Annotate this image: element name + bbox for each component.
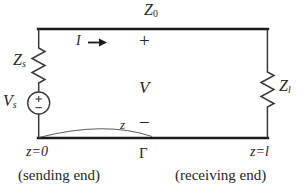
voltage-source-symbol xyxy=(28,92,50,114)
voltage-plus-terminal-label: + xyxy=(139,31,150,50)
sending-end-position-label: z=0 xyxy=(26,145,48,159)
circuit-diagram-figure: Z0 Zs Vs Zl I + V − z Γ z=0 z=l (sending… xyxy=(0,0,302,196)
voltage-minus-terminal-label: − xyxy=(139,113,150,132)
load-impedance-resistor xyxy=(261,68,274,112)
source-impedance-label: Zs xyxy=(13,52,26,69)
current-direction-arrow-icon xyxy=(88,38,107,46)
line-voltage-label: V xyxy=(139,79,149,96)
sending-end-caption: (sending end) xyxy=(18,168,100,183)
reflection-coefficient-label: Γ xyxy=(139,146,148,161)
distance-variable-label: z xyxy=(120,118,125,131)
current-label: I xyxy=(76,34,81,48)
source-impedance-resistor xyxy=(32,44,45,92)
load-impedance-label: Zl xyxy=(279,78,291,95)
receiving-end-position-label: z=l xyxy=(250,145,269,159)
source-voltage-label: Vs xyxy=(3,93,17,110)
characteristic-impedance-label: Z0 xyxy=(144,2,158,19)
receiving-end-caption: (receiving end) xyxy=(175,168,266,183)
distance-measure-arc xyxy=(39,129,152,138)
